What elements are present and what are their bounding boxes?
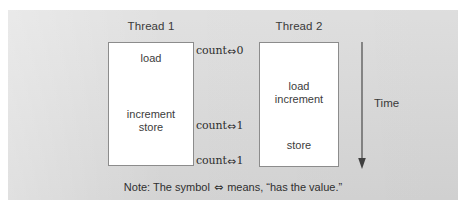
thread2-box: load increment store bbox=[259, 42, 339, 167]
figure-note: Note: The symbol ⇔ means, “has the value… bbox=[8, 181, 458, 194]
state-value-2: 1 bbox=[237, 154, 244, 167]
thread1-op-load: load bbox=[109, 52, 193, 65]
state-value-1: 1 bbox=[237, 119, 244, 132]
state-value-0: 0 bbox=[237, 44, 244, 57]
note-suffix: means, “has the value.” bbox=[224, 181, 342, 193]
note-prefix: Note: The symbol bbox=[124, 181, 213, 193]
has-value-symbol-icon: ⇔ bbox=[227, 120, 237, 132]
has-value-symbol-icon: ⇔ bbox=[227, 155, 237, 167]
has-value-symbol-icon: ⇔ bbox=[227, 45, 237, 57]
has-value-symbol-icon: ⇔ bbox=[213, 181, 224, 194]
thread2-title: Thread 2 bbox=[256, 20, 342, 32]
state-label-count-1: count⇔1 bbox=[196, 119, 243, 132]
thread1-op-increment-store: increment store bbox=[109, 108, 193, 133]
state-label-count-0: count⇔0 bbox=[196, 44, 243, 57]
state-label-count-2: count⇔1 bbox=[196, 154, 243, 167]
thread1-title: Thread 1 bbox=[108, 20, 194, 32]
time-arrow-icon bbox=[352, 40, 376, 170]
state-variable-0: count bbox=[196, 44, 227, 57]
state-variable-2: count bbox=[196, 154, 227, 167]
thread2-op-load-increment: load increment bbox=[260, 80, 338, 105]
time-axis-label: Time bbox=[374, 97, 399, 109]
thread2-op-store: store bbox=[260, 139, 338, 152]
thread-interleaving-figure: Thread 1 Thread 2 load increment store l… bbox=[0, 0, 471, 214]
thread1-box: load increment store bbox=[108, 42, 194, 166]
state-variable-1: count bbox=[196, 119, 227, 132]
